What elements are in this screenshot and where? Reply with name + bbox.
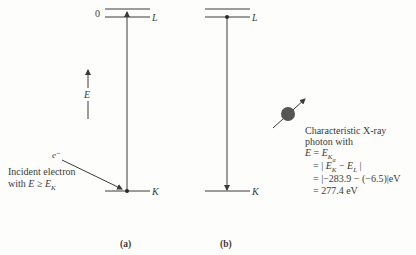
photon-caption-line1: Characteristic X-ray bbox=[305, 125, 386, 136]
k-shell-label-a: K bbox=[152, 186, 159, 197]
eq-equals: = bbox=[311, 147, 322, 158]
diff-prefix: = | bbox=[313, 160, 326, 171]
condition-ek-subscript: K bbox=[51, 184, 56, 192]
k-electron-dot bbox=[125, 189, 129, 193]
photon-ball-icon bbox=[281, 107, 295, 121]
zero-energy-label: 0 bbox=[95, 8, 100, 19]
electron-symbol-label: e⁻ bbox=[52, 150, 61, 161]
energy-axis-label: E bbox=[84, 89, 90, 100]
photon-energy-result: = 277.4 eV bbox=[313, 185, 358, 196]
panel-label-b: (b) bbox=[220, 239, 232, 250]
incident-electron-condition: with E ≥ EK bbox=[8, 178, 56, 189]
condition-prefix: with bbox=[8, 178, 28, 189]
xray-photon bbox=[273, 99, 305, 128]
condition-operator: ≥ bbox=[34, 178, 45, 189]
k-shell-label-b: K bbox=[252, 186, 259, 197]
l-shell-label-a: L bbox=[152, 12, 158, 23]
photon-caption-line2: photon with bbox=[305, 136, 353, 147]
photon-energy-diff: = | EK − EL | bbox=[313, 160, 362, 171]
diff-minus: − bbox=[336, 160, 347, 171]
diff-suffix: | bbox=[357, 160, 362, 171]
panel-label-a: (a) bbox=[120, 239, 131, 250]
photon-energy-numeric: = |−283.9 − (−6.5)|eV bbox=[313, 173, 400, 184]
diagram-b bbox=[205, 9, 250, 191]
l-shell-label-b: L bbox=[252, 12, 258, 23]
photon-energy-eq: E = EKα bbox=[305, 147, 336, 160]
incident-electron-label: Incident electron bbox=[8, 166, 75, 177]
